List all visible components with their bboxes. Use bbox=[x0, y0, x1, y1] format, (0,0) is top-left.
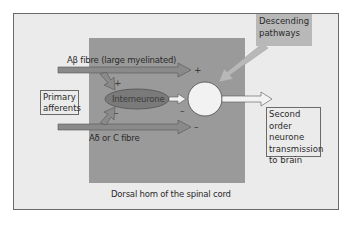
second-order-line4: to brain bbox=[269, 155, 318, 167]
descending-pathways-box: Descending pathways bbox=[256, 14, 312, 46]
descending-line2: pathways bbox=[259, 27, 309, 39]
ad-fibre-arrow bbox=[58, 120, 191, 134]
primary-afferents-line1: Primary bbox=[43, 92, 76, 103]
sign-ab-to-cell: + bbox=[194, 65, 202, 75]
primary-afferents-box: Primary afferents bbox=[40, 90, 79, 115]
ab-branch-arrow bbox=[100, 72, 115, 90]
sign-ad-to-inter: – bbox=[114, 108, 119, 118]
interneurone-label: Interneurone bbox=[112, 94, 165, 104]
ab-fibre-arrow bbox=[58, 63, 191, 77]
ad-fibre-label: Aδ or C fibre bbox=[89, 133, 139, 143]
inter-to-cell-arrow bbox=[169, 94, 186, 104]
primary-afferents-line2: afferents bbox=[43, 103, 76, 114]
sign-ab-to-inter: + bbox=[114, 78, 122, 88]
second-order-line3: transmission bbox=[269, 144, 318, 156]
second-order-box: Second order neurone transmission to bra… bbox=[266, 107, 321, 157]
second-order-line1: Second order bbox=[269, 109, 318, 132]
ab-fibre-label: Aβ fibre (large myelinated) bbox=[67, 55, 176, 65]
dorsal-horn-caption: Dorsal hom of the spinal cord bbox=[111, 189, 231, 199]
sign-ad-to-cell: – bbox=[194, 122, 199, 132]
descending-line1: Descending bbox=[259, 15, 309, 27]
descending-arrow bbox=[219, 44, 268, 82]
ad-branch-arrow bbox=[100, 107, 115, 125]
output-arrow bbox=[222, 92, 272, 106]
second-order-line2: neurone bbox=[269, 132, 318, 144]
transmission-cell bbox=[188, 82, 222, 116]
sign-inter-to-cell: – bbox=[180, 106, 185, 116]
